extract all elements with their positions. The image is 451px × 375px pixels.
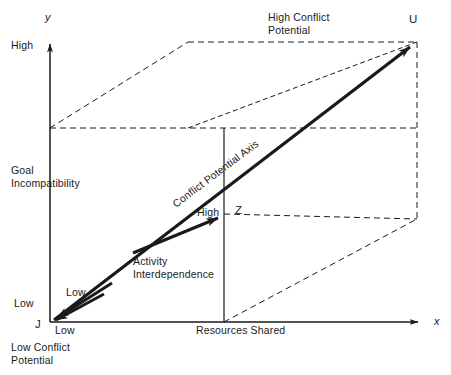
conflict-potential-diagram: y High Goal Incompatibility Low J Low Lo… xyxy=(0,0,451,375)
x-axis-name-label: Resources Shared xyxy=(196,324,285,337)
conflict-potential-vector xyxy=(54,47,410,320)
corner-label-j: J xyxy=(35,318,41,331)
y-axis-high-tick: High xyxy=(11,39,33,52)
low-conflict-potential-annotation: Low Conflict Potential xyxy=(11,341,70,367)
y-axis-name-label: Goal Incompatibility xyxy=(11,164,80,190)
z-axis-name-label: Activity Interdependence xyxy=(133,255,214,281)
edge-upper-diagonal xyxy=(188,42,417,128)
edge-floor-diagonal xyxy=(224,219,417,322)
activity-interdependence-vector xyxy=(133,218,218,253)
corner-label-u: U xyxy=(409,13,417,26)
y-axis-variable-label: y xyxy=(45,11,51,24)
z-axis-low-tick: Low xyxy=(66,286,86,299)
edge-depth-top-left xyxy=(50,42,188,128)
z-axis-high-tick: High xyxy=(197,206,219,219)
edge-z-horizontal xyxy=(224,214,417,219)
x-axis-low-tick: Low xyxy=(55,324,75,337)
corner-label-z: Z xyxy=(235,204,242,217)
high-conflict-potential-annotation: High Conflict Potential xyxy=(268,11,329,37)
y-axis-low-tick: Low xyxy=(14,297,34,310)
x-axis-variable-label: x xyxy=(434,315,440,328)
